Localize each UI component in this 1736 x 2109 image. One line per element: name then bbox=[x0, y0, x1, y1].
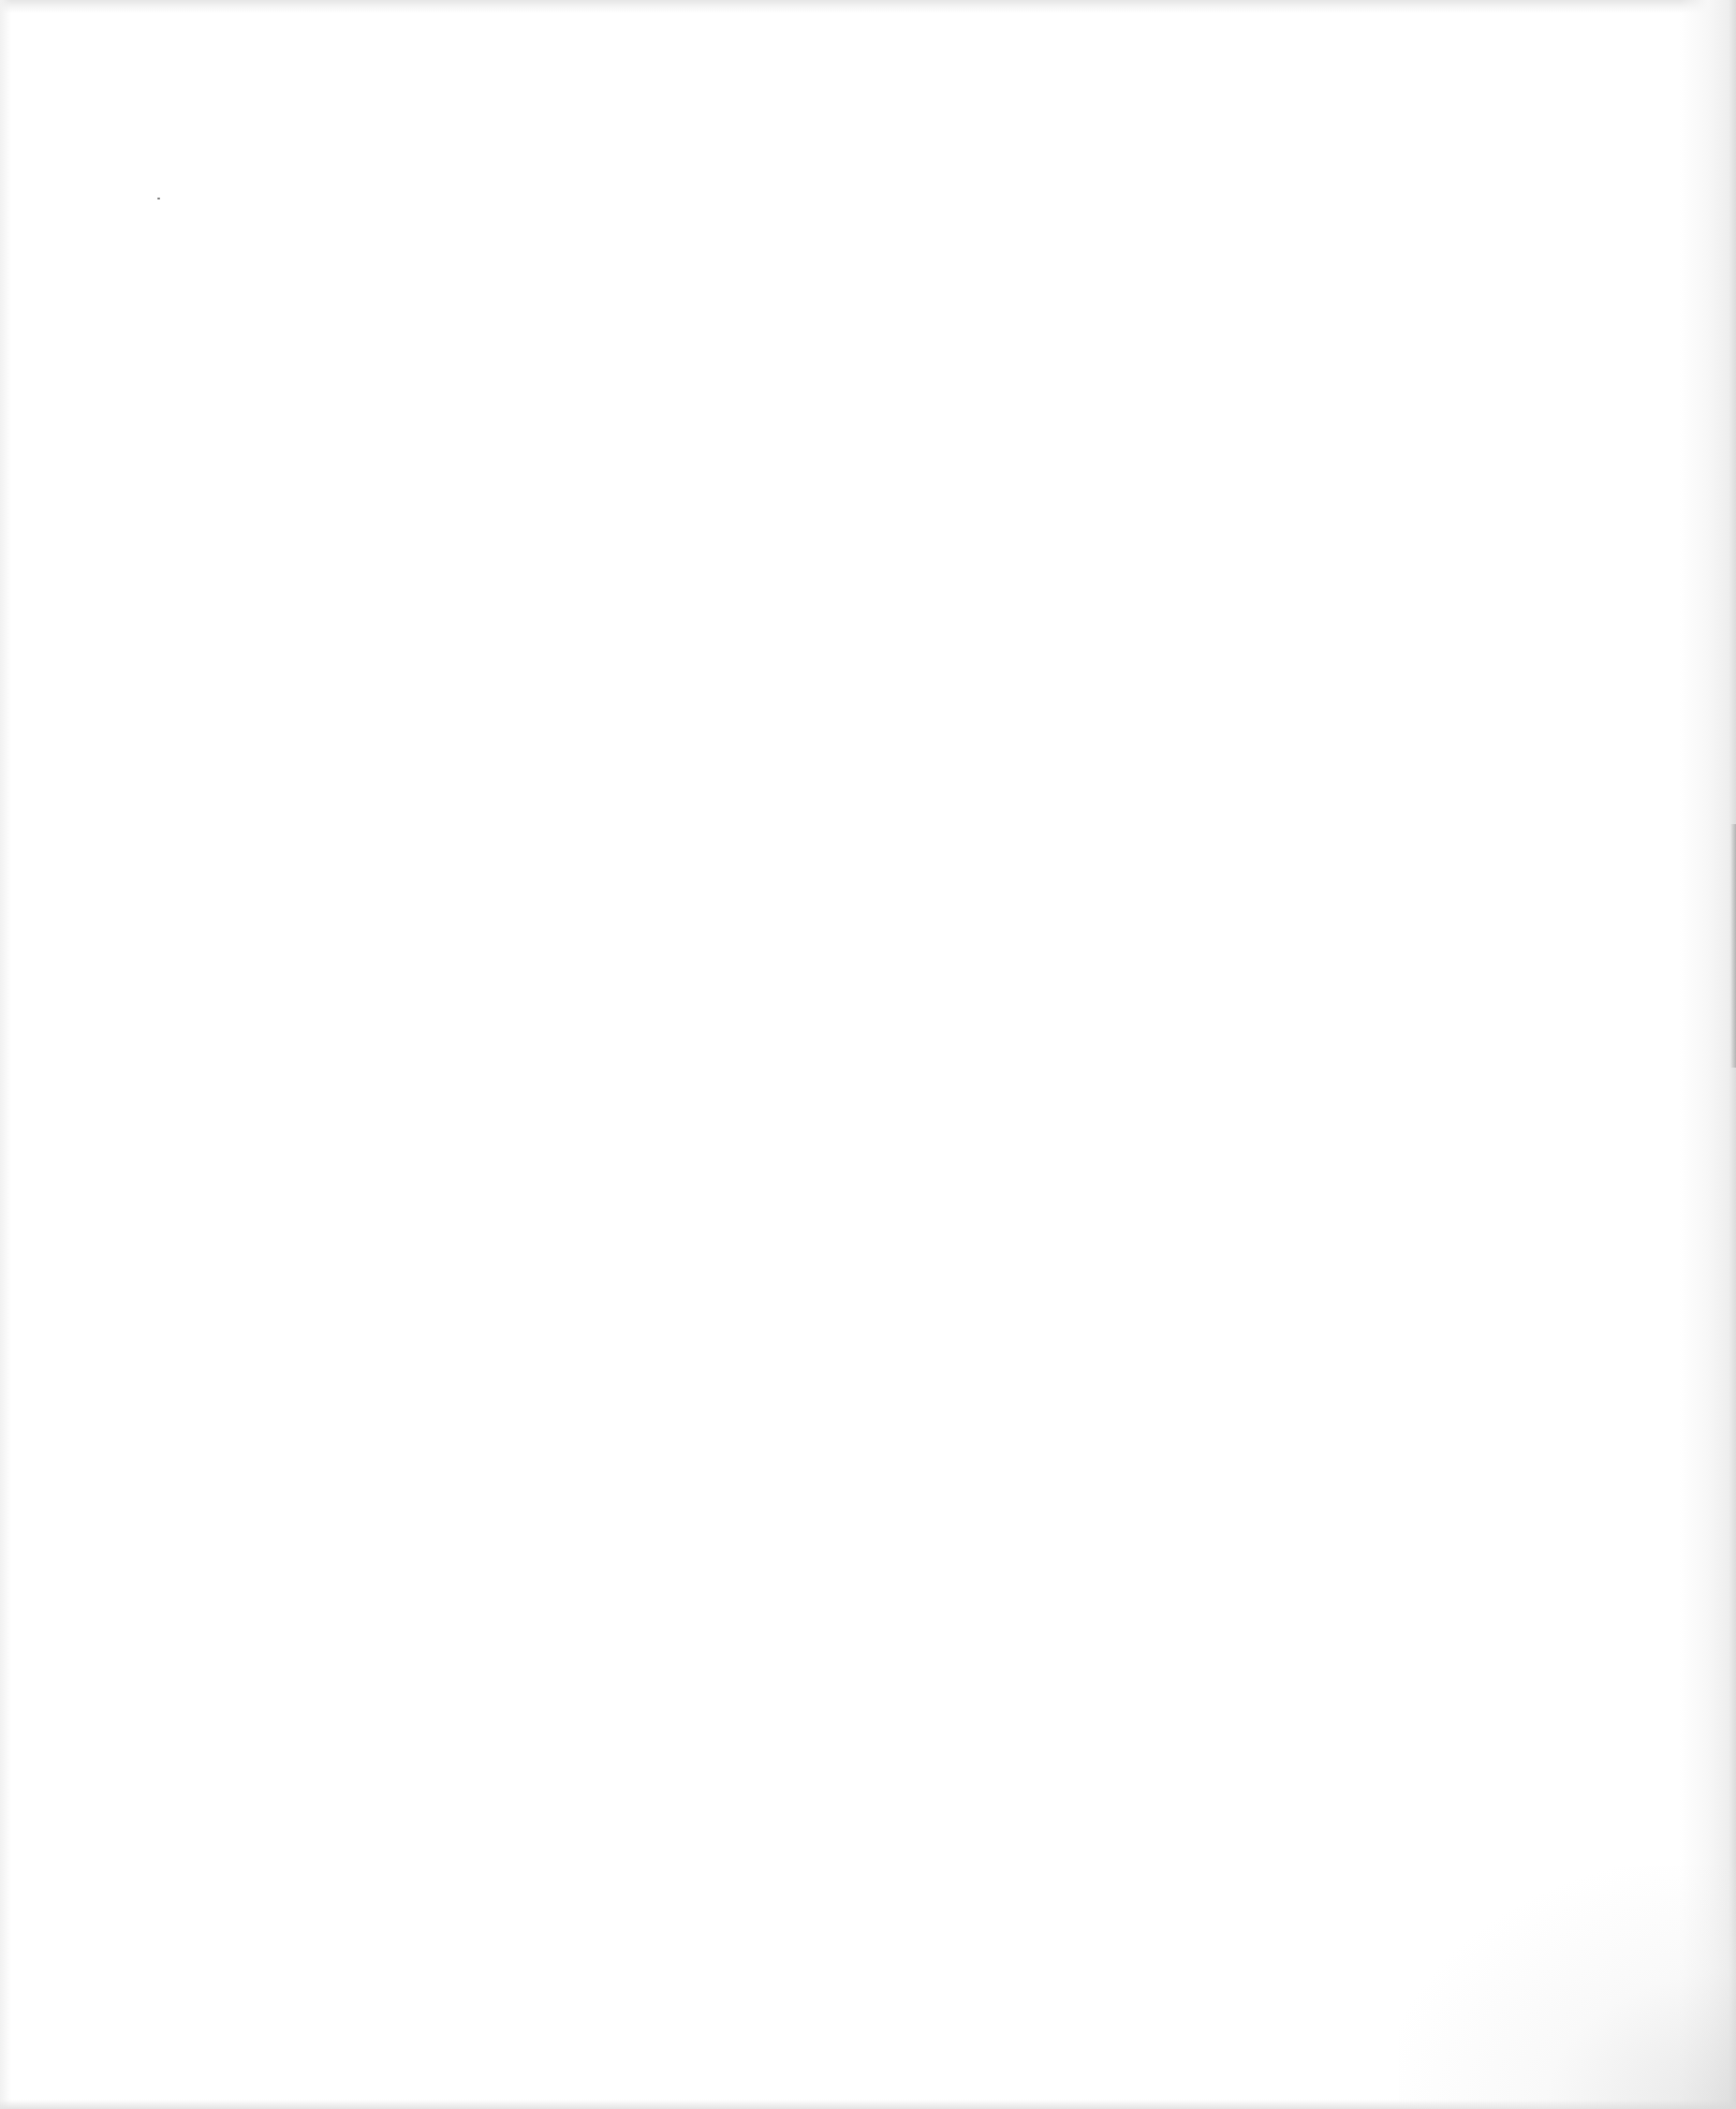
scan-edge-right-shadow bbox=[1730, 824, 1736, 1068]
blank-page bbox=[0, 0, 1736, 2109]
paper-grain bbox=[1399, 1866, 1736, 2109]
dust-speck bbox=[157, 198, 160, 199]
scan-edge-left bbox=[0, 0, 11, 2109]
scan-edge-right bbox=[1680, 0, 1736, 2109]
scan-edge-top bbox=[0, 0, 1736, 13]
